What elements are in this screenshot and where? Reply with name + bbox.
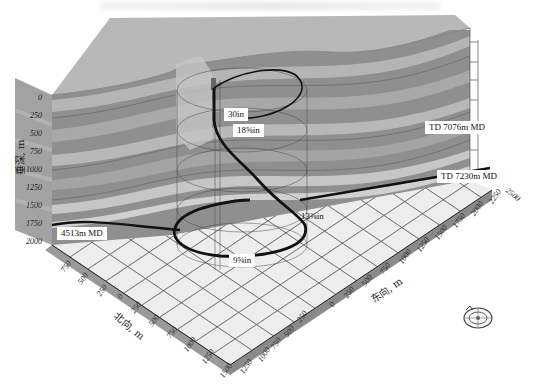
depth-axis-title: 垂深, m — [12, 140, 27, 176]
frame-lines — [470, 28, 478, 180]
casing-18in-label: 18⅝in — [233, 124, 264, 137]
depth-tick: 500 — [30, 129, 42, 138]
casing-9in-label: 9⅝in — [229, 254, 255, 267]
md-4513-label: 4513m MD — [57, 227, 107, 240]
depth-tick: 1250 — [26, 183, 42, 192]
depth-tick: 1500 — [26, 201, 42, 210]
depth-tick: 1750 — [26, 219, 42, 228]
well-3d-scene — [0, 0, 539, 388]
casing-13in-label: 13⅜in — [297, 210, 328, 223]
depth-tick: 0 — [38, 93, 42, 102]
depth-tick: 250 — [30, 111, 42, 120]
td-7076-label: TD 7076m MD — [425, 121, 489, 134]
depth-tick: 2000 — [26, 237, 42, 246]
td-7230-label: TD 7230m MD — [437, 170, 501, 183]
depth-tick: 1000 — [26, 165, 42, 174]
compass-rose-icon — [464, 306, 492, 328]
depth-tick: 750 — [30, 147, 42, 156]
casing-30in-label: 30in — [224, 108, 248, 121]
